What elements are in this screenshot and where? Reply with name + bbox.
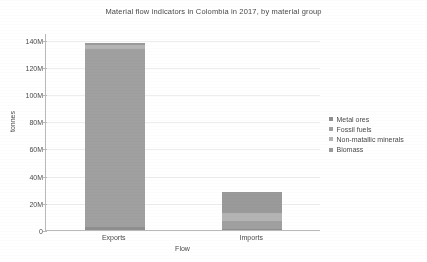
y-tick-label: 100M <box>5 92 43 99</box>
chart-container: Material flow indicators in Colombia in … <box>0 0 427 262</box>
plot-area <box>45 34 320 231</box>
y-tick-mark <box>43 122 47 123</box>
y-tick-label: 60M <box>5 146 43 153</box>
y-tick-label: 120M <box>5 64 43 71</box>
legend-swatch-icon <box>329 127 333 131</box>
bar-segment <box>85 227 145 230</box>
y-tick-label: 40M <box>5 173 43 180</box>
bar-segment <box>85 49 145 227</box>
chart-title: Material flow indicators in Colombia in … <box>0 7 427 16</box>
y-tick-mark <box>43 95 47 96</box>
y-tick-mark <box>43 68 47 69</box>
legend-item[interactable]: Metal ores <box>329 114 425 124</box>
y-tick-label: 20M <box>5 200 43 207</box>
x-tick-label: Imports <box>240 234 263 241</box>
legend-item[interactable]: Fossil fuels <box>329 124 425 134</box>
legend-swatch-icon <box>329 148 333 152</box>
y-tick-label: 140M <box>5 37 43 44</box>
bar-imports[interactable] <box>222 192 282 230</box>
x-axis-title: Flow <box>45 245 320 252</box>
legend-item[interactable]: Biomass <box>329 145 425 155</box>
chart-legend: Metal oresFossil fuelsNon-matallic miner… <box>329 114 425 155</box>
legend-label: Non-matallic minerals <box>337 136 404 143</box>
y-tick-label: 80M <box>5 119 43 126</box>
bar-segment <box>222 229 282 230</box>
legend-label: Fossil fuels <box>337 126 372 133</box>
bar-exports[interactable] <box>85 43 145 230</box>
y-tick-label: 0 <box>5 228 43 235</box>
legend-swatch-icon <box>329 137 333 141</box>
y-tick-mark <box>43 41 47 42</box>
y-tick-mark <box>43 177 47 178</box>
legend-swatch-icon <box>329 117 333 121</box>
legend-label: Biomass <box>337 146 364 153</box>
y-tick-mark <box>43 204 47 205</box>
y-tick-mark <box>43 231 47 232</box>
bar-segment <box>222 192 282 213</box>
legend-label: Metal ores <box>337 116 370 123</box>
x-tick-label: Exports <box>102 234 126 241</box>
y-tick-mark <box>43 149 47 150</box>
bar-segment <box>222 213 282 221</box>
legend-item[interactable]: Non-matallic minerals <box>329 134 425 144</box>
y-axis-ticks: 020M40M60M80M100M120M140M <box>0 34 43 231</box>
bar-segment <box>222 221 282 228</box>
